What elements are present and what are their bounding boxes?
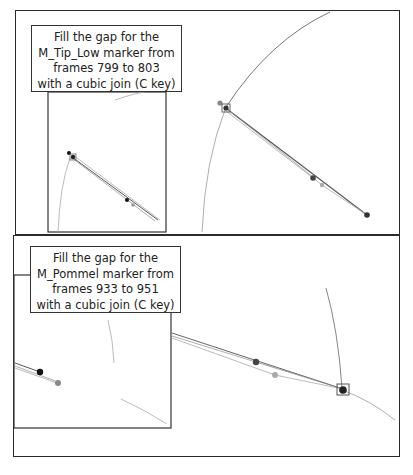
trajectory-arc: [226, 12, 330, 107]
top-inset-gap-line: [73, 155, 160, 220]
trajectory-arc: [342, 390, 395, 420]
top-instruction-callout: Fill the gap for the M_Tip_Low marker fr…: [31, 25, 182, 92]
gap-line: [172, 338, 275, 375]
bottom-instruction-callout: Fill the gap for the M_Pommel marker fro…: [30, 246, 181, 313]
gap-line: [172, 336, 256, 362]
gap-line: [275, 375, 343, 389]
marker-point[interactable]: [125, 198, 129, 202]
bottom-inset-trajectory-arc: [121, 399, 167, 424]
top-inset-gap-line: [72, 157, 158, 220]
top-inset-gap-line: [72, 158, 155, 221]
gap-line: [226, 111, 322, 185]
marker-point[interactable]: [131, 203, 135, 207]
marker-point[interactable]: [253, 359, 259, 365]
marker-point[interactable]: [223, 105, 228, 110]
top-inset-trajectory-arc: [58, 158, 70, 232]
marker-point[interactable]: [364, 212, 370, 218]
marker-point[interactable]: [55, 380, 61, 386]
marker-point[interactable]: [320, 183, 324, 187]
marker-point[interactable]: [272, 372, 278, 378]
marker-point[interactable]: [37, 369, 43, 375]
bottom-inset-gap-line: [15, 366, 58, 382]
marker-point[interactable]: [339, 386, 347, 394]
trajectory-arc: [202, 107, 226, 232]
marker-point[interactable]: [71, 155, 75, 159]
trajectory-arc: [326, 288, 342, 388]
bottom-inset-trajectory-arc: [108, 320, 114, 363]
gap-line: [322, 185, 367, 215]
marker-point[interactable]: [310, 175, 316, 181]
gap-line: [228, 110, 313, 177]
gap-line: [227, 109, 367, 215]
gap-line: [256, 362, 343, 389]
